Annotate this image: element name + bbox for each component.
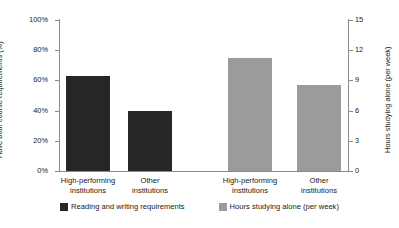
left-axis-tick-label: 80% <box>33 46 48 53</box>
left-axis-tick-label: 20% <box>33 137 48 144</box>
right-axis-tick <box>349 50 353 51</box>
right-axis-tick <box>349 20 353 21</box>
right-axis-tick-label: 3 <box>355 137 359 144</box>
bar <box>66 76 110 171</box>
right-axis-title: Hours studying alone (per week) <box>384 47 391 153</box>
category-label-line: Other <box>105 176 195 186</box>
left-axis-tick-label: 60% <box>33 77 48 84</box>
left-axis-title: Have both course requirements (%) <box>0 41 4 158</box>
right-axis-tick-label: 6 <box>355 107 359 114</box>
right-axis-tick-label: 9 <box>355 77 359 84</box>
right-axis-tick <box>349 80 353 81</box>
right-axis-tick <box>349 171 353 172</box>
category-label: Otherinstitutions <box>274 176 364 196</box>
legend-label: Reading and writing requirements <box>71 203 185 211</box>
left-axis-tick-label: 0% <box>37 167 48 174</box>
plot-area <box>59 20 349 171</box>
left-axis-tick-label: 100% <box>29 16 48 23</box>
x-axis-line <box>59 171 349 172</box>
legend-swatch-icon <box>219 203 227 211</box>
legend-label: Hours studying alone (per week) <box>230 203 339 211</box>
bar <box>297 85 341 171</box>
category-label: Otherinstitutions <box>105 176 195 196</box>
legend-swatch-icon <box>60 203 68 211</box>
legend-item[interactable]: Hours studying alone (per week) <box>219 203 339 211</box>
left-axis-tick-label: 40% <box>33 107 48 114</box>
right-axis-tick-label: 12 <box>355 46 363 53</box>
right-axis-tick <box>349 111 353 112</box>
legend-item[interactable]: Reading and writing requirements <box>60 203 185 211</box>
bar <box>228 58 272 171</box>
category-label-line: institutions <box>274 186 364 196</box>
right-axis-tick-label: 15 <box>355 16 363 23</box>
right-axis-tick <box>349 141 353 142</box>
right-axis-tick-label: 0 <box>355 167 359 174</box>
category-label-line: institutions <box>105 186 195 196</box>
bar <box>128 111 172 171</box>
category-label-line: Other <box>274 176 364 186</box>
grouped-bar-chart: 0%20%40%60%80%100% 03691215 Have both co… <box>0 0 399 228</box>
left-axis-tick <box>55 171 59 172</box>
chart-legend: Reading and writing requirementsHours st… <box>0 203 399 211</box>
